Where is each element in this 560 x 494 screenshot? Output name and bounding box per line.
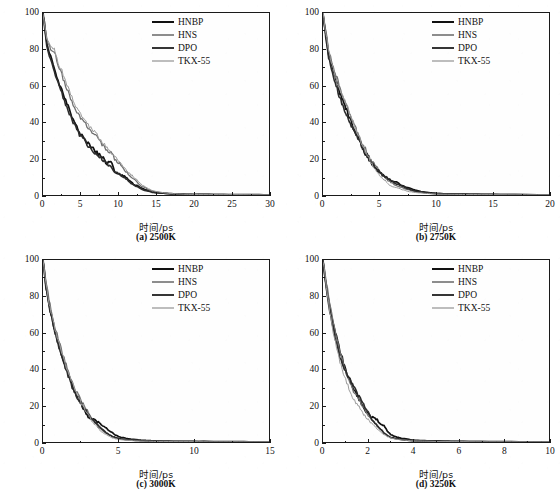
panel-b: 原始分子的百分比/% HNBPHNSDPOTKX-55 时间/ps (b) 27…: [280, 0, 560, 247]
x-tick: [459, 439, 460, 443]
y-tick: [42, 333, 46, 334]
panel-caption-c: (c) 3000K: [136, 479, 175, 489]
legend-swatch-line: [432, 264, 454, 274]
x-tick: [251, 194, 252, 197]
legend-label: TKX-55: [178, 303, 210, 313]
x-tick: [80, 192, 81, 196]
y-tick-label: 0: [297, 191, 319, 201]
x-tick-label: 6: [456, 446, 461, 456]
y-tick: [42, 196, 46, 197]
y-tick: [322, 86, 326, 87]
y-tick: [322, 259, 326, 260]
x-tick: [156, 441, 157, 444]
x-tick: [413, 439, 414, 443]
legend-swatch-line: [152, 43, 174, 53]
panel-caption-a: (a) 2500K: [136, 232, 176, 242]
legend-label: HNS: [178, 30, 197, 40]
y-tick-label: 100: [297, 7, 319, 17]
x-tick-label: 10: [189, 446, 199, 456]
y-tick-label: 100: [297, 254, 319, 264]
legend-label: HNS: [458, 30, 477, 40]
x-tick: [270, 439, 271, 443]
x-tick-label: 0: [320, 446, 325, 456]
y-tick: [322, 159, 326, 160]
legend-item: HNS: [152, 276, 210, 288]
y-tick: [322, 351, 325, 352]
legend-item: TKX-55: [432, 302, 490, 314]
legend-swatch-line: [432, 17, 454, 27]
y-tick: [322, 443, 326, 444]
y-tick: [42, 351, 45, 352]
x-tick-label: 5: [377, 199, 382, 209]
x-tick: [345, 441, 346, 444]
y-tick: [42, 314, 45, 315]
legend-item: HNBP: [432, 263, 490, 275]
legend-label: HNS: [458, 277, 477, 287]
legend-label: HNBP: [458, 264, 483, 274]
x-tick-label: 10: [431, 199, 441, 209]
y-tick: [322, 12, 326, 13]
y-tick: [42, 67, 45, 68]
x-tick: [213, 194, 214, 197]
y-tick-label: 20: [297, 154, 319, 164]
legend-item: TKX-55: [152, 55, 210, 67]
y-tick: [42, 86, 46, 87]
x-tick: [118, 439, 119, 443]
panel-c: 原始分子的百分比/% HNBPHNSDPOTKX-55 时间/ps (c) 30…: [0, 247, 280, 494]
y-tick-label: 0: [17, 191, 39, 201]
x-tick: [175, 194, 176, 197]
y-tick: [42, 406, 46, 407]
legend-swatch-line: [432, 30, 454, 40]
x-tick: [465, 194, 466, 197]
y-tick: [42, 443, 46, 444]
x-tick-label: 15: [151, 199, 161, 209]
y-tick-label: 80: [17, 291, 39, 301]
y-tick: [322, 277, 325, 278]
x-tick: [351, 194, 352, 197]
legend-swatch-line: [152, 30, 174, 40]
y-tick: [42, 12, 46, 13]
y-tick: [42, 104, 45, 105]
y-tick: [322, 406, 326, 407]
y-tick: [322, 196, 326, 197]
x-tick-label: 5: [78, 199, 83, 209]
legend-swatch-line: [432, 56, 454, 66]
y-tick-label: 100: [17, 7, 39, 17]
legend-label: DPO: [458, 43, 477, 53]
y-tick: [322, 314, 325, 315]
panel-caption-b: (b) 2750K: [416, 232, 456, 242]
y-tick: [322, 30, 325, 31]
x-tick-label: 0: [40, 199, 45, 209]
x-tick: [436, 192, 437, 196]
y-tick-label: 100: [17, 254, 39, 264]
y-tick-label: 40: [297, 364, 319, 374]
y-tick-label: 60: [17, 81, 39, 91]
y-tick: [322, 141, 325, 142]
x-tick: [99, 194, 100, 197]
y-tick-label: 20: [17, 154, 39, 164]
panel-d: 原始分子的百分比/% HNBPHNSDPOTKX-55 时间/ps (d) 32…: [280, 247, 560, 494]
x-tick-label: 4: [411, 446, 416, 456]
x-tick-label: 20: [545, 199, 555, 209]
legend-item: DPO: [432, 42, 490, 54]
y-tick: [42, 296, 46, 297]
y-tick-label: 60: [17, 328, 39, 338]
legend-item: HNS: [432, 276, 490, 288]
x-tick: [61, 194, 62, 197]
x-tick-label: 5: [116, 446, 121, 456]
y-tick-label: 80: [17, 44, 39, 54]
legend-d: HNBPHNSDPOTKX-55: [432, 263, 490, 314]
y-tick-label: 20: [297, 401, 319, 411]
legend-a: HNBPHNSDPOTKX-55: [152, 16, 210, 67]
legend-swatch-line: [152, 303, 174, 313]
legend-item: HNBP: [432, 16, 490, 28]
legend-item: HNS: [152, 29, 210, 41]
legend-swatch-line: [152, 277, 174, 287]
legend-label: DPO: [178, 43, 197, 53]
legend-swatch-line: [152, 17, 174, 27]
x-tick: [390, 441, 391, 444]
y-tick: [42, 30, 45, 31]
figure-grid: 原始分子的百分比/% HNBPHNSDPOTKX-55 时间/ps (a) 25…: [0, 0, 560, 494]
x-tick-label: 25: [227, 199, 237, 209]
x-tick: [504, 439, 505, 443]
